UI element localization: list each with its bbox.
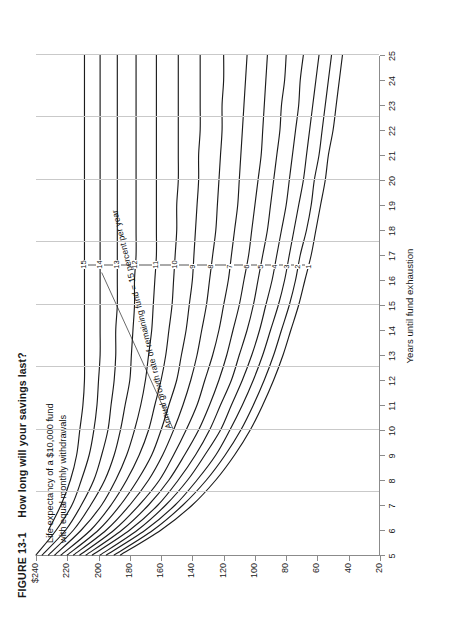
x-axis-tick-label: 6 (387, 519, 397, 543)
grid-line-vertical (36, 242, 379, 243)
curve-line (74, 55, 224, 555)
curve-line (49, 55, 85, 530)
grid-line-vertical (36, 367, 379, 368)
x-axis-tick-label: 21 (387, 144, 397, 168)
y-axis-tick-mark (380, 556, 381, 561)
y-axis-tick-mark (286, 556, 287, 561)
y-axis-tick-label: $240 (30, 563, 40, 620)
x-axis-tick-label: 24 (387, 69, 397, 93)
curve-label: 6 (243, 264, 251, 269)
x-axis-tick-label: 19 (387, 194, 397, 218)
y-axis-tick-mark (99, 556, 100, 561)
x-axis-tick-mark (380, 205, 385, 206)
x-axis-tick-mark (380, 355, 385, 356)
x-axis-tick-label: 9 (387, 444, 397, 468)
figure-header: FIGURE 13-1 How long will your savings l… (12, 352, 30, 598)
x-axis-tick-label: 11 (387, 394, 397, 418)
curve-label: 4 (271, 264, 279, 269)
curves-layer (36, 55, 380, 555)
x-axis-tick-mark (380, 305, 385, 306)
curve-label: 13 (113, 260, 121, 269)
grid-line-vertical (36, 304, 379, 305)
curve-label: 10 (171, 260, 179, 269)
x-axis-tick-label: 23 (387, 94, 397, 118)
y-axis-tick-mark (36, 556, 37, 561)
x-axis-tick-label: 25 (387, 44, 397, 68)
curve-label: 14 (96, 260, 104, 269)
grid-line-vertical (36, 429, 379, 430)
y-axis-tick-label: 60 (311, 563, 321, 620)
curve-label: 15 (80, 260, 88, 269)
y-axis-tick-label: 140 (186, 563, 196, 620)
y-axis-tick-label: 180 (124, 563, 134, 620)
curve-label: 3 (283, 264, 291, 269)
curve-line (42, 55, 117, 555)
curve-line (61, 55, 178, 555)
x-axis-tick-mark (380, 380, 385, 381)
x-axis-tick-mark (380, 105, 385, 106)
curve-label: 9 (189, 264, 197, 269)
curve-line (49, 55, 137, 555)
y-axis-tick-mark (255, 556, 256, 561)
curve-label: 7 (226, 264, 234, 269)
y-axis-tick-label: 40 (343, 563, 353, 620)
x-axis-tick-label: 10 (387, 419, 397, 443)
y-axis-tick-mark (161, 556, 162, 561)
y-axis-tick-mark (317, 556, 318, 561)
x-axis-tick-label: 12 (387, 369, 397, 393)
grid-line-vertical (36, 54, 379, 55)
x-axis-tick-label: 22 (387, 119, 397, 143)
x-axis-tick-mark (380, 155, 385, 156)
figure-page: FIGURE 13-1 How long will your savings l… (0, 0, 450, 620)
x-axis-tick-label: 5 (387, 544, 397, 568)
x-axis-tick-mark (380, 505, 385, 506)
plot-area: Life expectancy of a $10,000 fund with e… (36, 56, 380, 556)
y-axis-tick-label: 120 (218, 563, 228, 620)
curve-line (100, 55, 303, 555)
grid-line-vertical (36, 492, 379, 493)
y-axis-tick-label: 100 (249, 563, 259, 620)
x-axis-tick-label: 15 (387, 294, 397, 318)
figure-number: FIGURE 13-1 (16, 532, 28, 598)
x-axis-tick-mark (380, 455, 385, 456)
y-axis-tick-label: 80 (280, 563, 290, 620)
x-axis-tick-mark (380, 405, 385, 406)
curve-label: 11 (152, 261, 160, 269)
y-axis-tick-label: 200 (93, 563, 103, 620)
curve-label: 1 (305, 264, 313, 269)
x-axis-tick-mark (380, 530, 385, 531)
curve-line (86, 55, 267, 555)
grid-line-vertical (36, 117, 379, 118)
x-axis-tick-mark (380, 330, 385, 331)
y-axis-tick-mark (192, 556, 193, 561)
x-axis-tick-label: 7 (387, 494, 397, 518)
x-axis-tick-label: 16 (387, 269, 397, 293)
y-axis-tick-label: 220 (61, 563, 71, 620)
y-axis-tick-label: 20 (374, 563, 384, 620)
x-axis-tick-mark (380, 180, 385, 181)
x-axis-tick-mark (380, 430, 385, 431)
x-axis-title: Years until fund exhaustion (404, 56, 415, 556)
x-axis-tick-mark (380, 480, 385, 481)
figure-title: How long will your savings last? (16, 352, 28, 517)
curve-line (36, 55, 100, 555)
grid-line-vertical (36, 179, 379, 180)
x-axis-tick-mark (380, 255, 385, 256)
y-axis-tick-mark (224, 556, 225, 561)
x-axis-tick-label: 18 (387, 219, 397, 243)
x-axis-tick-mark (380, 230, 385, 231)
curve-label: 2 (294, 264, 302, 269)
curve-label: 5 (257, 264, 265, 269)
x-axis-tick-mark (380, 130, 385, 131)
x-axis-tick-mark (380, 55, 385, 56)
curve-label: 8 (207, 264, 215, 269)
x-axis-tick-mark (380, 280, 385, 281)
x-axis-tick-mark (380, 80, 385, 81)
x-axis-tick-label: 14 (387, 319, 397, 343)
y-axis-tick-label: 160 (155, 563, 165, 620)
x-axis-tick-label: 20 (387, 169, 397, 193)
x-axis-tick-label: 17 (387, 244, 397, 268)
y-axis-tick-mark (67, 556, 68, 561)
x-axis-tick-label: 13 (387, 344, 397, 368)
x-axis-tick-mark (380, 555, 385, 556)
